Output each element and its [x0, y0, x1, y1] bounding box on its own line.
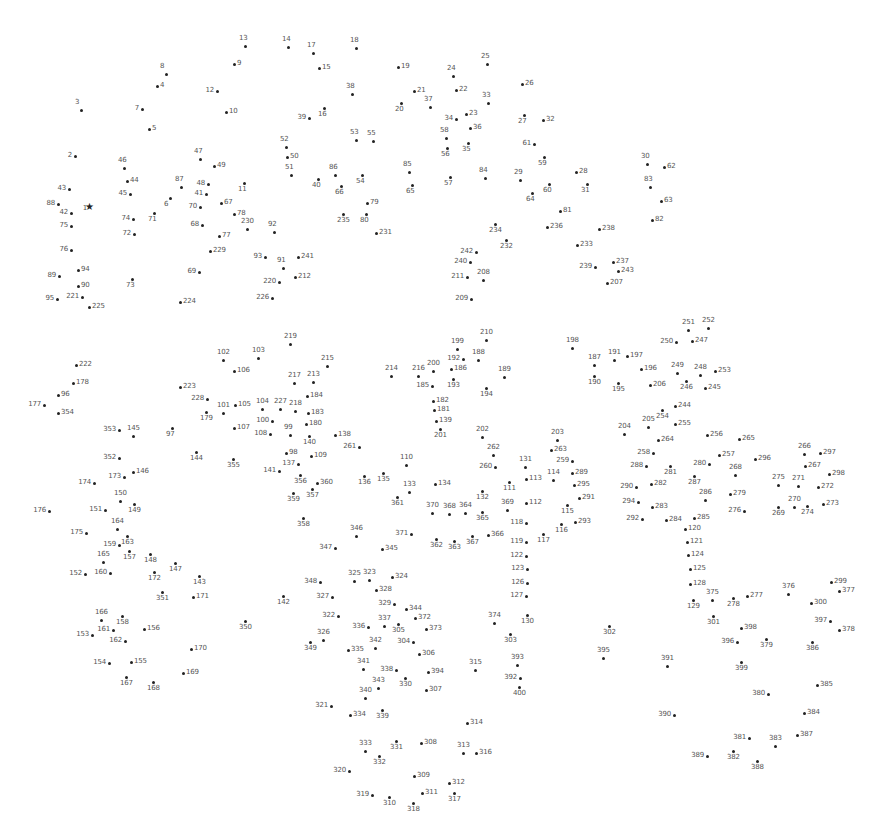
point-number: 47	[194, 148, 203, 155]
dot-icon	[448, 782, 451, 785]
point-number: 238	[602, 225, 615, 232]
point-number: 193	[447, 382, 460, 389]
point-number: 77	[222, 232, 231, 239]
dot-icon	[525, 555, 528, 558]
point-number: 384	[807, 709, 820, 716]
dot-icon	[432, 370, 435, 373]
dot-icon	[413, 90, 416, 93]
point-number: 297	[823, 449, 836, 456]
point-number: 52	[280, 136, 289, 143]
point-number: 396	[721, 638, 734, 645]
point-number: 63	[664, 197, 673, 204]
point-number: 85	[403, 161, 412, 168]
point-number: 36	[473, 124, 482, 131]
dot-icon	[81, 296, 84, 299]
point-number: 106	[237, 367, 250, 374]
point-number: 151	[89, 506, 102, 513]
dot-icon	[351, 93, 354, 96]
dot-icon	[334, 434, 337, 437]
point-number: 279	[733, 490, 746, 497]
point-number: 243	[621, 267, 634, 274]
dot-icon	[297, 463, 300, 466]
point-number: 103	[252, 347, 265, 354]
point-number: 58	[440, 127, 449, 134]
dot-icon	[307, 412, 310, 415]
point-number: 66	[335, 189, 344, 196]
dot-icon	[626, 355, 629, 358]
dot-icon	[57, 394, 60, 397]
point-number: 272	[821, 483, 834, 490]
dot-icon	[201, 224, 204, 227]
point-number: 206	[653, 381, 666, 388]
point-number: 188	[472, 349, 485, 356]
point-number: 393	[511, 654, 524, 661]
point-number: 174	[78, 479, 91, 486]
point-number: 178	[76, 379, 89, 386]
point-number: 247	[695, 337, 708, 344]
dot-icon	[70, 249, 73, 252]
point-number: 311	[425, 789, 438, 796]
dot-icon	[395, 669, 398, 672]
point-number: 68	[190, 221, 199, 228]
dot-icon	[75, 364, 78, 367]
point-number: 388	[751, 764, 764, 771]
point-number: 355	[227, 462, 240, 469]
dot-icon	[687, 329, 690, 332]
dot-icon	[364, 697, 367, 700]
dot-icon	[77, 269, 80, 272]
dot-icon	[271, 297, 274, 300]
point-number: 261	[343, 443, 356, 450]
dot-icon	[708, 463, 711, 466]
point-number: 316	[479, 749, 492, 756]
dot-icon	[660, 200, 663, 203]
point-number: 309	[417, 772, 430, 779]
dot-icon	[306, 395, 309, 398]
dot-icon	[487, 102, 490, 105]
point-number: 306	[422, 650, 435, 657]
point-number: 46	[118, 157, 127, 164]
point-number: 294	[622, 498, 635, 505]
point-number: 286	[699, 489, 712, 496]
dot-icon	[334, 174, 337, 177]
dot-icon	[375, 589, 378, 592]
point-number: 398	[744, 624, 757, 631]
point-number: 296	[758, 455, 771, 462]
point-number: 141	[263, 467, 276, 474]
point-number: 134	[438, 480, 451, 487]
point-number: 4	[160, 82, 164, 89]
dot-icon	[470, 298, 473, 301]
point-number: 287	[688, 479, 701, 486]
dot-icon	[420, 742, 423, 745]
dot-icon	[355, 47, 358, 50]
dot-icon	[810, 602, 813, 605]
dot-icon	[132, 218, 135, 221]
point-number: 148	[144, 557, 157, 564]
dot-icon	[93, 482, 96, 485]
dot-icon	[552, 479, 555, 482]
point-number: 345	[385, 545, 398, 552]
dot-icon	[70, 212, 73, 215]
dot-icon	[494, 466, 497, 469]
dot-icon	[466, 276, 469, 279]
point-number: 147	[169, 566, 182, 573]
dot-icon	[487, 534, 490, 537]
dot-icon	[412, 641, 415, 644]
dot-icon	[318, 67, 321, 70]
point-number: 341	[357, 658, 370, 665]
point-number: 197	[630, 352, 643, 359]
point-number: 377	[842, 587, 855, 594]
point-number: 186	[454, 365, 467, 372]
dot-icon	[362, 668, 365, 671]
point-number: 332	[373, 759, 386, 766]
point-number: 344	[409, 605, 422, 612]
dot-icon	[729, 493, 732, 496]
point-number: 205	[642, 416, 655, 423]
point-number: 364	[459, 502, 472, 509]
dot-icon	[349, 714, 352, 717]
point-number: 102	[217, 349, 230, 356]
dot-icon	[433, 409, 436, 412]
dot-icon	[156, 85, 159, 88]
dot-icon	[594, 266, 597, 269]
dot-icon	[285, 452, 288, 455]
dot-icon	[148, 128, 151, 131]
